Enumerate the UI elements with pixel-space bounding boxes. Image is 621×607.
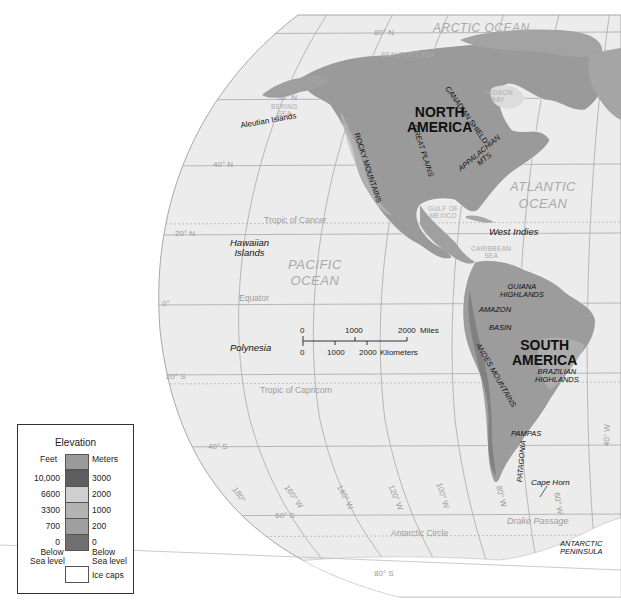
- scale-km-0: 0: [300, 349, 304, 357]
- continent-label-south-america-line1: SOUTH: [512, 338, 577, 353]
- lat-label-80s: 80° S: [374, 570, 394, 578]
- place-label-cape-horn: Cape Horn: [531, 479, 570, 487]
- legend-meters-0: 0: [92, 537, 97, 547]
- scale-km-unit: Kilometers: [380, 349, 418, 357]
- continent-label-south-america-line2: AMERICA: [512, 353, 577, 368]
- place-label-hawaiian-line2: Islands: [230, 248, 269, 258]
- legend-swatch-200-1000: [65, 502, 89, 519]
- legend-meters-200: 200: [92, 521, 106, 531]
- legend-feet-0: 0: [22, 537, 60, 547]
- feature-label-basin: BASIN: [489, 324, 512, 332]
- feature-label-brazilian-highlands: BRAZILIAN HIGHLANDS: [535, 368, 579, 385]
- scale-miles-0: 0: [300, 327, 304, 335]
- place-label-west-indies: West Indies: [489, 227, 538, 237]
- ocean-label-atlantic-line1: ATLANTIC: [510, 180, 576, 193]
- legend-swatch-ice-caps: [65, 566, 89, 583]
- feature-label-antarctic-pen-line2: PENINSULA: [560, 548, 603, 556]
- scale-km-1000: 1000: [327, 349, 345, 357]
- ocean-label-pacific-line2: OCEAN: [288, 274, 342, 287]
- legend-swatch-2000-3000: [65, 470, 89, 487]
- lat-label-60s: 60° S: [275, 512, 295, 520]
- sea-label-hudson-line2: BAY: [483, 97, 513, 104]
- lat-label-equator: 0°: [162, 300, 170, 308]
- legend-swatch-above-3000: [65, 454, 89, 470]
- lat-label-20n: 20° N: [175, 230, 195, 238]
- ocean-label-pacific-line1: PACIFIC: [288, 258, 342, 271]
- legend-swatch-0-200: [65, 518, 89, 535]
- place-label-hawaiian-islands: Hawaiian Islands: [230, 238, 269, 257]
- sea-label-gulf-of-mexico: GULF OF MEXICO: [428, 206, 458, 219]
- ocean-label-atlantic: ATLANTIC OCEAN: [510, 180, 576, 210]
- lat-label-60n: 60° N: [277, 94, 297, 102]
- feature-label-brazilian-line2: HIGHLANDS: [535, 376, 579, 384]
- lat-label-80n: 80° N: [374, 29, 394, 37]
- legend-swatch-1000-2000: [65, 486, 89, 503]
- sea-label-hudson: HUDSON BAY: [483, 90, 513, 103]
- feature-label-guiana-line2: HIGHLANDS: [500, 291, 544, 299]
- legend-meters-below-sea-level: Below Sea level: [92, 548, 127, 566]
- legend-meters-3000: 3000: [92, 473, 111, 483]
- continent-label-south-america: SOUTH AMERICA: [512, 338, 577, 367]
- sea-label-gulf-line2: MEXICO: [428, 213, 458, 220]
- legend-feet-below-sea-level: Below Sea level: [39, 548, 65, 566]
- sea-label-caribbean: CARIBBEAN SEA: [471, 246, 511, 259]
- sea-label-beaufort: BEAUFORT SEA: [381, 52, 435, 59]
- ocean-label-atlantic-line2: OCEAN: [510, 197, 576, 210]
- legend-meters-header: Meters: [92, 454, 118, 464]
- scale-km-2000: 2000: [359, 349, 377, 357]
- sea-label-caribbean-line2: SEA: [471, 253, 511, 260]
- line-label-tropic-of-capricorn: Tropic of Capricorn: [260, 386, 332, 395]
- scale-miles-2000: 2000: [398, 327, 416, 335]
- legend-feet-below-line2: Sea level: [30, 557, 65, 566]
- legend-ice-caps-label: Ice caps: [92, 570, 124, 580]
- legend-title: Elevation: [18, 437, 133, 448]
- feature-label-antarctic-peninsula: ANTARCTIC PENINSULA: [560, 540, 603, 557]
- ocean-label-pacific: PACIFIC OCEAN: [288, 258, 342, 287]
- legend-meters-2000: 2000: [92, 489, 111, 499]
- legend-feet-10000: 10,000: [22, 473, 60, 483]
- lat-label-20s: 20° S: [166, 373, 186, 381]
- line-label-tropic-of-cancer: Tropic of Cancer: [264, 216, 327, 225]
- legend-feet-6600: 6600: [22, 489, 60, 499]
- scale-miles-1000: 1000: [345, 327, 363, 335]
- line-label-equator: Equator: [239, 294, 269, 303]
- legend-feet-3300: 3300: [22, 505, 60, 515]
- lat-label-40s: 40° S: [208, 443, 228, 451]
- legend-feet-700: 700: [22, 521, 60, 531]
- place-label-drake-passage: Drake Passage: [507, 517, 569, 526]
- feature-label-amazon: AMAZON: [479, 306, 511, 314]
- lat-label-40n: 40° N: [213, 161, 233, 169]
- legend-swatch-below-sea: [65, 534, 89, 551]
- feature-label-guiana-highlands: GUIANA HIGHLANDS: [500, 283, 544, 300]
- feature-label-pampas: PAMPAS: [511, 430, 541, 438]
- legend-meters-below-line2: Sea level: [92, 557, 127, 566]
- lon-label-40w: 40° W: [603, 424, 612, 446]
- legend-feet-header: Feet: [40, 454, 57, 464]
- elevation-legend: Elevation Feet Meters 10,000 6600 3300 7…: [17, 424, 134, 594]
- ocean-label-arctic: ARCTIC OCEAN: [433, 22, 530, 34]
- line-label-antarctic-circle: Antarctic Circle: [391, 529, 448, 538]
- scale-miles-unit: Miles: [420, 327, 439, 335]
- place-label-polynesia: Polynesia: [230, 343, 271, 353]
- legend-meters-1000: 1000: [92, 505, 111, 515]
